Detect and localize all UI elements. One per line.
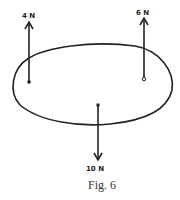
force-label-10n: 10 N <box>86 165 104 173</box>
rigid-body-outline <box>13 44 172 125</box>
force-arrow-4n <box>25 22 33 84</box>
force-arrow-10n <box>94 104 102 161</box>
force-diagram: 4 N 6 N 10 N Fig. 6 <box>0 0 180 200</box>
figure-caption: Fig. 6 <box>88 178 116 192</box>
force-label-6n: 6 N <box>136 9 149 17</box>
force-label-4n: 4 N <box>22 12 35 20</box>
